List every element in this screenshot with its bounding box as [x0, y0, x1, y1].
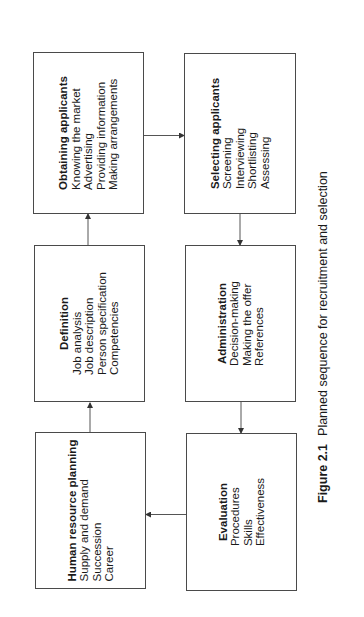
- figure-label: Figure 2.1: [316, 444, 330, 503]
- box-item: Assessing: [259, 78, 272, 189]
- box-item: Job analysis: [71, 272, 84, 375]
- box-item: Supply and demand: [78, 440, 91, 582]
- box-item: Providing information: [95, 76, 108, 190]
- box-selecting-applicants: Selecting applicants Screening Interview…: [184, 53, 296, 214]
- box-evaluation: Evaluation Procedures Skills Effectivene…: [186, 433, 297, 591]
- box-item: Interviewing: [234, 78, 247, 189]
- box-item: Knowing the market: [70, 76, 83, 190]
- box-item: References: [253, 281, 266, 366]
- box-item: Advertising: [82, 76, 95, 190]
- box-item: Making arrangements: [107, 76, 120, 190]
- box-item: Skills: [242, 478, 255, 546]
- box-obtaining-applicants: Obtaining applicants Knowing the market …: [33, 52, 144, 214]
- box-item: Succession: [91, 440, 104, 582]
- box-item: Screening: [221, 78, 234, 189]
- box-item: Job description: [83, 272, 96, 375]
- box-item: Career: [103, 440, 116, 582]
- box-item: Procedures: [229, 478, 242, 546]
- box-item: Shortlisting: [246, 78, 259, 189]
- box-human-resource-planning: Human resource planning Supply and deman…: [35, 432, 146, 589]
- box-item: Making the offer: [241, 281, 254, 366]
- box-item: Person specification: [96, 272, 109, 375]
- box-title: Evaluation: [217, 478, 230, 546]
- figure-caption: Figure 2.1Planned sequence for recruitme…: [314, 131, 332, 503]
- box-title: Selecting applicants: [209, 78, 222, 189]
- box-title: Definition: [58, 272, 71, 375]
- box-title: Human resource planning: [66, 440, 79, 582]
- box-title: Administration: [216, 281, 229, 366]
- box-item: Decision-making: [228, 281, 241, 366]
- figure-caption-text: Planned sequence for recruitment and sel…: [316, 171, 330, 436]
- box-item: Effectiveness: [254, 478, 267, 546]
- box-definition: Definition Job analysis Job description …: [34, 245, 145, 402]
- box-administration: Administration Decision-making Making th…: [185, 245, 296, 402]
- box-item: Competencies: [108, 272, 121, 375]
- box-title: Obtaining applicants: [57, 76, 70, 190]
